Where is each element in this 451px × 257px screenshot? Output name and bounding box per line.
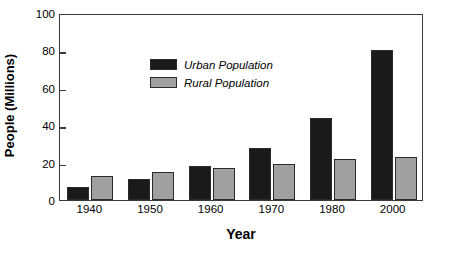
x-axis-tick-label: 1950 bbox=[137, 203, 163, 215]
bar-group bbox=[128, 15, 174, 200]
bar-rural bbox=[273, 164, 295, 200]
bar-series-container bbox=[60, 15, 422, 200]
x-axis-label: Year bbox=[59, 226, 423, 242]
y-axis-tick-label: 60 bbox=[27, 83, 55, 95]
bar-group bbox=[67, 15, 113, 200]
x-axis-tick-label: 1980 bbox=[319, 203, 345, 215]
y-axis-tick-label: 40 bbox=[27, 120, 55, 132]
y-axis-tick-label: 100 bbox=[27, 8, 55, 20]
chart-figure: People (Millions) 020406080100 Urban Pop… bbox=[0, 0, 451, 257]
y-axis-tick-label: 20 bbox=[27, 158, 55, 170]
legend-item-urban: Urban Population bbox=[150, 58, 273, 71]
bar-urban bbox=[128, 179, 150, 200]
bar-group bbox=[189, 15, 235, 200]
x-axis-tick-label: 1970 bbox=[259, 203, 285, 215]
legend-label-rural: Rural Population bbox=[184, 77, 269, 89]
bar-group bbox=[310, 15, 356, 200]
y-axis-label: People (Millions) bbox=[0, 0, 20, 210]
y-axis-tick-label: 0 bbox=[27, 195, 55, 207]
bar-rural bbox=[395, 157, 417, 200]
bar-rural bbox=[213, 168, 235, 200]
bar-rural bbox=[91, 176, 113, 200]
plot-area: Urban Population Rural Population bbox=[59, 14, 423, 201]
y-axis-tick-label: 80 bbox=[27, 45, 55, 57]
bar-urban bbox=[371, 50, 393, 200]
bar-rural bbox=[152, 172, 174, 200]
y-axis-tick-mark bbox=[60, 52, 66, 53]
chart-legend: Urban Population Rural Population bbox=[150, 58, 273, 89]
legend-label-urban: Urban Population bbox=[184, 59, 273, 71]
legend-item-rural: Rural Population bbox=[150, 76, 273, 89]
x-axis-tick-labels: 194019501960197019802000 bbox=[59, 203, 423, 221]
bar-urban bbox=[249, 148, 271, 200]
bar-group bbox=[371, 15, 417, 200]
y-axis-tick-mark bbox=[60, 127, 66, 128]
x-axis-tick-label: 1940 bbox=[77, 203, 103, 215]
bar-urban bbox=[189, 166, 211, 200]
legend-swatch-rural-icon bbox=[150, 77, 177, 88]
bar-rural bbox=[334, 159, 356, 200]
legend-swatch-urban-icon bbox=[150, 59, 177, 70]
bar-urban bbox=[310, 118, 332, 200]
y-axis-label-text: People (Millions) bbox=[3, 53, 18, 156]
y-axis-tick-mark bbox=[60, 90, 66, 91]
bar-urban bbox=[67, 187, 89, 200]
x-axis-tick-label: 2000 bbox=[380, 203, 406, 215]
x-axis-tick-label: 1960 bbox=[198, 203, 224, 215]
bar-group bbox=[249, 15, 295, 200]
y-axis-tick-mark bbox=[60, 165, 66, 166]
y-axis-tick-labels: 020406080100 bbox=[22, 0, 55, 257]
